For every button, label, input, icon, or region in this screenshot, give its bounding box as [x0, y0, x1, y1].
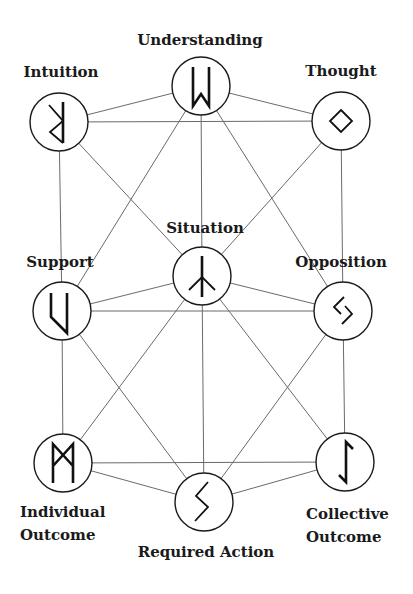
edge-intuition-thought	[88, 121, 312, 122]
node-individual-outcome	[34, 434, 92, 492]
node-support	[33, 282, 91, 340]
edge-individual_outcome-collective_outcome	[92, 462, 316, 463]
node-circle	[34, 434, 92, 492]
label-collective-line2: Outcome	[306, 528, 381, 546]
edge-individual_outcome-required_action	[91, 471, 176, 495]
label-situation: Situation	[166, 219, 244, 237]
edge-collective_outcome-required_action	[232, 470, 317, 494]
edge-situation-required_action	[202, 305, 203, 473]
label-individual-line1: Individual	[20, 503, 106, 521]
edge-opposition-collective_outcome	[343, 340, 344, 433]
rune-diagram: Understanding Intuition Thought Situatio…	[0, 0, 413, 594]
node-opposition	[314, 282, 372, 340]
label-opposition: Opposition	[295, 253, 387, 271]
edge-opposition-required_action	[221, 334, 326, 478]
label-collective-line1: Collective	[306, 505, 389, 523]
node-intuition	[30, 93, 88, 151]
node-circle	[175, 473, 233, 531]
label-thought: Thought	[305, 62, 376, 80]
node-situation	[173, 247, 231, 305]
edge-intuition-understanding	[87, 93, 173, 115]
node-required-action	[175, 473, 233, 531]
edge-understanding-thought	[229, 93, 313, 114]
edge-support-required_action	[79, 334, 186, 478]
node-circle	[312, 92, 370, 150]
edge-support-individual_outcome	[62, 340, 63, 434]
node-circle	[314, 282, 372, 340]
edge-opposition-situation	[230, 283, 315, 304]
node-thought	[312, 92, 370, 150]
edge-intuition-situation	[79, 143, 183, 254]
label-understanding: Understanding	[137, 31, 263, 49]
node-understanding	[172, 57, 230, 115]
node-circle	[33, 282, 91, 340]
edge-support-situation	[90, 283, 174, 304]
node-circle	[172, 57, 230, 115]
node-collective-outcome	[316, 433, 374, 491]
label-individual-line2: Outcome	[20, 526, 95, 544]
edge-situation-collective_outcome	[220, 299, 328, 439]
label-intuition: Intuition	[24, 63, 99, 81]
edge-situation-individual_outcome	[80, 299, 184, 439]
label-support: Support	[26, 253, 94, 271]
label-required-action: Required Action	[138, 543, 275, 561]
node-circle	[30, 93, 88, 151]
